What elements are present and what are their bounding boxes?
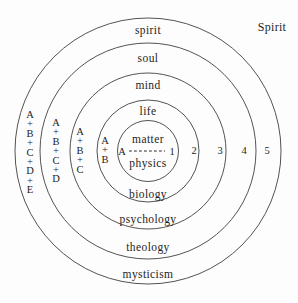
circles-svg: [0, 0, 298, 303]
center-label-matter: matter: [132, 133, 164, 145]
center-label-physics: physics: [129, 157, 166, 169]
ring-circle-3: [70, 73, 226, 229]
letter-stack-abc: A + B + C: [76, 127, 84, 174]
center-letter-a: A: [118, 145, 126, 156]
letter-stack-abcd: A + B + C + D: [52, 118, 60, 184]
corner-label-spirit: Spirit: [258, 20, 286, 35]
ring-label-theology: theology: [126, 241, 169, 253]
ring-number-2: 2: [191, 145, 196, 156]
ring-label-biology: biology: [129, 188, 167, 200]
ring-label-spirit: spirit: [135, 24, 161, 36]
ring-label-psychology: psychology: [119, 213, 176, 225]
letter-stack-abcde: A + B + C + D + E: [26, 110, 34, 195]
ring-number-3: 3: [217, 145, 222, 156]
ring-circle-4: [40, 43, 256, 259]
concentric-circles-diagram: Spirit spirit soul mind life matter A 1 …: [0, 0, 298, 303]
letter-stack-ab: A + B: [101, 136, 109, 164]
center-number-1: 1: [169, 145, 174, 156]
ring-label-soul: soul: [138, 52, 159, 64]
ring-label-mysticism: mysticism: [123, 268, 174, 280]
ring-label-mind: mind: [135, 79, 160, 91]
ring-label-life: life: [140, 105, 157, 117]
ring-number-5: 5: [264, 145, 269, 156]
ring-number-4: 4: [241, 145, 246, 156]
